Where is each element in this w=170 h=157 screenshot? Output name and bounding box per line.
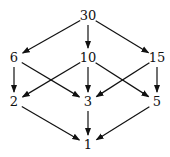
edge-n2-n1 <box>22 107 80 140</box>
node-2: 2 <box>10 94 18 109</box>
node-30: 30 <box>80 8 97 23</box>
edge-n30-n15 <box>96 21 149 53</box>
node-3: 3 <box>84 94 92 109</box>
edges <box>14 20 157 140</box>
node-15: 15 <box>149 50 166 65</box>
node-1: 1 <box>84 137 92 152</box>
edge-n30-n6 <box>23 20 80 53</box>
edge-n5-n1 <box>96 107 149 140</box>
node-5: 5 <box>153 94 161 109</box>
node-10: 10 <box>80 50 97 65</box>
divisor-lattice-diagram: 30610152351 <box>0 0 170 157</box>
node-6: 6 <box>10 50 18 65</box>
